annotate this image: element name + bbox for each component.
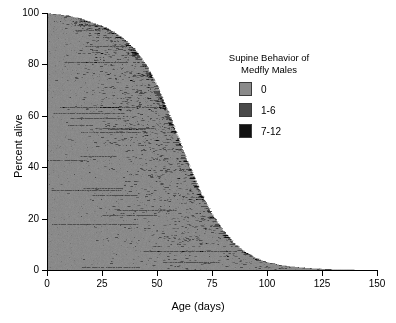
- legend-swatch: [239, 82, 252, 96]
- survival-raster-figure: 0255075100125150 020406080100 Age (days)…: [0, 0, 396, 323]
- x-tick: [102, 271, 103, 276]
- legend-item: 1-6: [205, 103, 333, 117]
- legend-swatch: [239, 103, 252, 117]
- legend-label: 0: [261, 84, 267, 95]
- y-tick: [42, 13, 47, 14]
- y-tick-label: 80: [5, 59, 39, 69]
- x-tick-label: 150: [357, 279, 396, 289]
- x-tick: [47, 271, 48, 276]
- x-axis-title: Age (days): [0, 300, 396, 312]
- legend-label: 1-6: [261, 105, 275, 116]
- legend-label: 7-12: [261, 126, 281, 137]
- x-tick: [157, 271, 158, 276]
- x-tick-label: 125: [302, 279, 342, 289]
- y-tick: [42, 270, 47, 271]
- y-tick: [42, 167, 47, 168]
- x-tick-label: 25: [82, 279, 122, 289]
- y-tick: [42, 116, 47, 117]
- y-tick: [42, 219, 47, 220]
- y-tick-label: 0: [5, 265, 39, 275]
- y-tick-label: 20: [5, 214, 39, 224]
- legend: Supine Behavior of Medfly Males 01-67-12: [205, 52, 333, 138]
- y-tick: [42, 64, 47, 65]
- x-tick-label: 0: [27, 279, 67, 289]
- x-tick: [212, 271, 213, 276]
- x-tick: [322, 271, 323, 276]
- legend-title: Supine Behavior of Medfly Males: [205, 52, 333, 75]
- y-tick-label: 100: [5, 8, 39, 18]
- legend-item: 7-12: [205, 124, 333, 138]
- x-tick-label: 75: [192, 279, 232, 289]
- x-tick: [377, 271, 378, 276]
- y-axis-title: Percent alive: [12, 114, 24, 178]
- x-tick: [267, 271, 268, 276]
- legend-items: 01-67-12: [205, 82, 333, 138]
- legend-item: 0: [205, 82, 333, 96]
- x-tick-label: 50: [137, 279, 177, 289]
- x-tick-label: 100: [247, 279, 287, 289]
- legend-swatch: [239, 124, 252, 138]
- y-axis-line: [47, 13, 48, 271]
